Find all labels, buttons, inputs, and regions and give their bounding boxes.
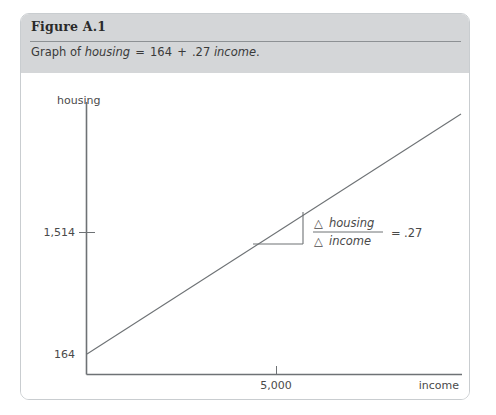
- annotation-value: .27: [404, 226, 422, 240]
- annotation-denominator: income: [329, 234, 371, 248]
- caption-divider: [30, 41, 461, 42]
- annotation-numerator: housing: [329, 216, 374, 230]
- y-tick-label-1514: 1,514: [44, 226, 76, 239]
- plot-area: housing income 1,514 164 5,000 △ housing…: [21, 73, 469, 400]
- delta-numerator-icon: △: [314, 216, 323, 230]
- caption-variable-y: housing: [85, 45, 130, 59]
- regression-line-chart: housing income 1,514 164 5,000 △ housing…: [21, 73, 470, 400]
- delta-denominator-icon: △: [314, 234, 323, 248]
- y-tick-label-164: 164: [54, 348, 75, 361]
- figure-card: Figure A.1 Graph of housing = 164 + .27 …: [20, 13, 470, 400]
- y-axis-label: housing: [57, 94, 100, 107]
- caption-variable-x: income: [214, 45, 256, 59]
- caption-plus: +: [176, 45, 189, 59]
- slope-annotation: △ housing △ income = .27: [313, 216, 422, 248]
- caption-slope: .27: [192, 45, 210, 59]
- caption-prefix: Graph of: [31, 45, 81, 59]
- caption-equals: =: [134, 45, 147, 59]
- figure-caption: Graph of housing = 164 + .27 income.: [31, 45, 260, 59]
- x-axis-label: income: [419, 379, 460, 392]
- annotation-equals: =: [391, 226, 401, 240]
- caption-period: .: [256, 45, 260, 59]
- caption-intercept: 164: [150, 45, 172, 59]
- figure-number: Figure A.1: [31, 19, 106, 34]
- x-tick-label-5000: 5,000: [260, 379, 292, 392]
- figure-caption-band: Figure A.1 Graph of housing = 164 + .27 …: [21, 14, 469, 73]
